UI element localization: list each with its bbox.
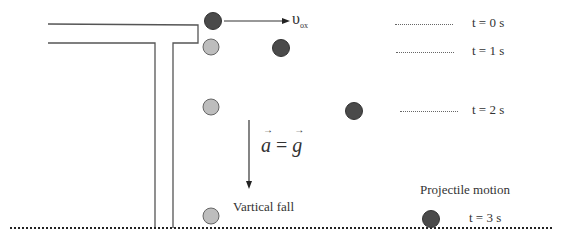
table-structure (48, 24, 198, 228)
velocity-arrow (224, 18, 290, 24)
time-leader-t2 (400, 111, 458, 112)
projectile-balls (205, 13, 440, 228)
time-leader-t0 (395, 24, 453, 25)
projectile-ball-t0 (205, 13, 222, 30)
time-label-t1: t = 1 s (472, 43, 504, 59)
velocity-symbol: υ (292, 10, 300, 27)
velocity-label: υox (292, 10, 308, 30)
g-symbol: g (292, 134, 302, 156)
velocity-subscript: ox (300, 21, 308, 30)
acceleration-arrow (246, 120, 252, 189)
equals-sign: = (276, 134, 287, 156)
falling-balls (203, 39, 219, 224)
a-vector: →a (261, 134, 271, 156)
projectile-ball-t3 (423, 211, 440, 228)
time-label-t0: t = 0 s (472, 15, 504, 31)
falling-ball-t2 (203, 99, 219, 115)
acceleration-label: →a = →g (261, 134, 302, 157)
time-label-t2: t = 2 s (472, 102, 504, 118)
falling-ball-t3 (203, 208, 219, 224)
caption-vertical-fall: Vartical fall (233, 199, 294, 215)
falling-ball-t1 (203, 39, 219, 55)
caption-projectile-motion: Projectile motion (420, 182, 510, 198)
time-leader-t1 (396, 52, 454, 53)
time-label-t3: t = 3 s (469, 210, 501, 226)
projectile-ball-t1 (273, 40, 290, 57)
a-symbol: a (261, 134, 271, 156)
projectile-ball-t2 (346, 103, 363, 120)
g-vector: →g (292, 134, 302, 156)
